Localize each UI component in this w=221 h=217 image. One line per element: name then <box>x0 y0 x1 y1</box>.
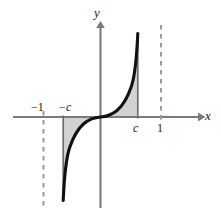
tick-label-c: c <box>133 122 138 134</box>
math-figure: y x −1 −c c 1 <box>0 0 221 217</box>
x-axis-label: x <box>205 109 211 122</box>
tick-label-one: 1 <box>157 122 163 134</box>
shaded-region-right <box>101 34 138 118</box>
shaded-region-left <box>63 117 100 201</box>
y-axis-arrowhead <box>96 21 105 28</box>
tick-label-neg-one: −1 <box>31 101 44 113</box>
y-axis-label: y <box>94 6 100 19</box>
tick-label-neg-c: −c <box>58 101 71 113</box>
